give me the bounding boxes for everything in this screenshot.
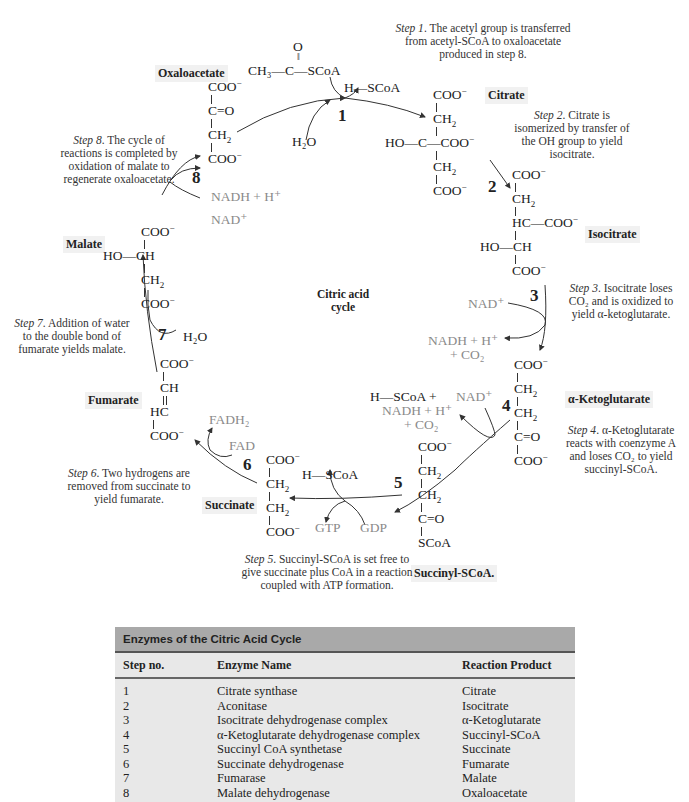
arrow-step3 (540, 285, 546, 350)
table-rows: 1 Citrate synthase Citrate 2 Aconitase I… (115, 679, 575, 800)
col-header-enzyme: Enzyme Name (217, 653, 462, 677)
step1-lead: Step 1 (395, 22, 423, 34)
step-description-7: Step 7. Addition of water to the double … (10, 317, 134, 356)
molecule-succinate: COO− CH2 CH2 COO− (266, 453, 300, 538)
label-malate: Malate (63, 236, 105, 253)
table-body: Step no. Enzyme Name Reaction Product 1 … (115, 653, 575, 802)
step3-lead: Step 3 (570, 282, 598, 294)
step-description-8: Step 8. The cycle of reactions is comple… (60, 134, 178, 186)
cofactor-gtp: GTP (315, 521, 341, 535)
cell-step: 6 (115, 757, 217, 772)
step5-lead: Step 5 (245, 553, 273, 565)
col-header-product: Reaction Product (462, 653, 575, 677)
step1-text: . The acetyl group is transferred from a… (405, 22, 571, 60)
cell-product: Citrate (462, 684, 575, 699)
cofactor-nad-step8: NAD⁺ (211, 213, 247, 227)
table-row: 1 Citrate synthase Citrate (115, 684, 575, 699)
molecule-citrate: COO− CH2 HO—C—COO− CH2 COO− (385, 88, 474, 197)
reagent-acetyl-scoa: CH₃—C—SCoA (248, 64, 340, 78)
step4-lead: Step 4 (568, 424, 596, 436)
table-row: 3 Isocitrate dehydrogenase complex α-Ket… (115, 713, 575, 728)
cofactor-co2-step4: + CO₂ (404, 418, 438, 432)
label-citrate: Citrate (485, 87, 528, 104)
cell-step: 3 (115, 713, 217, 728)
table-row: 7 Fumarase Malate (115, 771, 575, 786)
arrow-step5 (290, 495, 402, 499)
cycle-center-label: Citric acid cycle (317, 288, 369, 314)
center-label-line2: cycle (317, 301, 369, 314)
step-description-4: Step 4. α-Ketoglutarate reacts with coen… (562, 424, 680, 476)
cell-product: Malate (462, 771, 575, 786)
step-description-6: Step 6. Two hydrogens are removed from s… (62, 467, 196, 506)
label-isocitrate: Isocitrate (585, 226, 640, 243)
cell-enzyme: α-Ketoglutarate dehydrogenase complex (217, 728, 462, 743)
table-row: 5 Succinyl CoA synthetase Succinate (115, 742, 575, 757)
cell-product: Oxaloacetate (462, 786, 575, 801)
reagent-h-scoa-step1: H—SCoA (344, 81, 400, 95)
cell-enzyme: Fumarase (217, 771, 462, 786)
step8-lead: Step 8 (73, 134, 101, 146)
cell-product: Isocitrate (462, 699, 575, 714)
molecule-malate: COO− HO—CH CH2 COO− (103, 225, 175, 310)
table-row: 8 Malate dehydrogenase Oxaloacetate (115, 786, 575, 801)
table-title: Enzymes of the Citric Acid Cycle (115, 627, 575, 653)
cell-step: 8 (115, 786, 217, 801)
cofactor-nadh-step3: NADH + H⁺ (428, 334, 498, 348)
cell-enzyme: Succinyl CoA synthetase (217, 742, 462, 757)
cofactor-nadh-step8: NADH + H⁺ (211, 190, 281, 204)
cell-enzyme: Malate dehydrogenase (217, 786, 462, 801)
cell-enzyme: Succinate dehydrogenase (217, 757, 462, 772)
step-description-2: Step 2. Citrate is isomerized by transfe… (508, 109, 636, 161)
cell-step: 1 (115, 684, 217, 699)
reagent-h-scoa-step5: H—SCoA (302, 468, 358, 482)
step-number-7: 7 (158, 325, 167, 345)
cofactor-nadh-step4: NADH + H⁺ (382, 404, 452, 418)
cofactor-nad-step3: NAD⁺ (468, 297, 504, 311)
molecule-fumarate: COO− CH HC COO− (150, 357, 194, 442)
cofactor-fad: FAD (229, 439, 255, 453)
step2-lead: Step 2 (534, 109, 562, 121)
cell-step: 7 (115, 771, 217, 786)
step7-lead: Step 7 (14, 317, 42, 329)
step-number-4: 4 (502, 396, 511, 416)
molecule-ketoglutarate: COO− CH2 CH2 C=O COO− (514, 358, 548, 467)
cofactor-nad-step4: NAD⁺ (456, 390, 492, 404)
cell-step: 2 (115, 699, 217, 714)
acetyl-double-bond: ‖ (297, 52, 300, 62)
molecule-succinyl-scoa: COO− CH2 CH2 C=O SCoA (418, 440, 452, 549)
molecule-oxaloacetate: COO− C=O CH2 COO− (208, 80, 242, 165)
step-number-5: 5 (394, 473, 403, 493)
cell-step: 4 (115, 728, 217, 743)
step6-lead: Step 6 (68, 467, 96, 479)
table-row: 6 Succinate dehydrogenase Fumarate (115, 757, 575, 772)
cell-enzyme: Aconitase (217, 699, 462, 714)
center-label-line1: Citric acid (317, 288, 369, 301)
step-description-5: Step 5. Succinyl-SCoA is set free to giv… (237, 553, 417, 592)
reagent-h-scoa-step4: H—SCoA + (370, 390, 437, 404)
cell-enzyme: Citrate synthase (217, 684, 462, 699)
cell-product: Succinate (462, 742, 575, 757)
cofactor-gdp: GDP (360, 521, 387, 535)
label-ketoglutarate: α-Ketoglutarate (565, 391, 653, 408)
step-description-1: Step 1. The acetyl group is transferred … (388, 22, 578, 61)
table-row: 4 α-Ketoglutarate dehydrogenase complex … (115, 728, 575, 743)
cell-product: α-Ketoglutarate (462, 713, 575, 728)
step-number-1: 1 (338, 106, 347, 126)
step-number-3: 3 (530, 286, 539, 306)
cofactor-fadh2: FADH₂ (209, 413, 249, 427)
step-number-6: 6 (243, 455, 252, 475)
col-header-step: Step no. (115, 653, 217, 677)
label-fumarate: Fumarate (85, 392, 142, 409)
label-succinate: Succinate (202, 497, 257, 514)
step-description-3: Step 3. Isocitrate loses CO₂ and is oxid… (566, 282, 676, 321)
reagent-h2o-step7: H₂O (183, 330, 207, 344)
table-header-row: Step no. Enzyme Name Reaction Product (115, 653, 575, 679)
label-succinyl-scoa: Succinyl-SCoA. (411, 565, 497, 582)
cofactor-co2-step3: + CO₂ (450, 348, 484, 362)
arrow-step1 (237, 98, 345, 132)
cell-enzyme: Isocitrate dehydrogenase complex (217, 713, 462, 728)
cell-product: Succinyl-SCoA (462, 728, 575, 743)
step-number-8: 8 (192, 168, 201, 188)
molecule-isocitrate: COO− CH2 HC—COO− HO—CH COO− (480, 168, 578, 277)
table-row: 2 Aconitase Isocitrate (115, 699, 575, 714)
